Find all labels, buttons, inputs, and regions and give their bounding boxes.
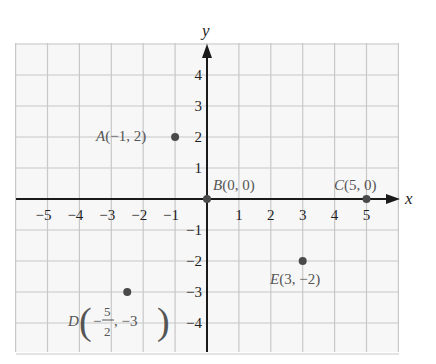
svg-text:2: 2 [104,324,111,339]
x-tick-label: −4 [67,207,83,223]
label-C: C(5, 0) [334,177,377,194]
y-tick-label: 4 [195,67,203,83]
x-tick-label: −3 [99,207,115,223]
label-A: A(−1, 2) [95,128,146,145]
y-tick-label: −1 [186,222,202,238]
x-tick-label: 1 [235,207,243,223]
point-D [123,288,131,296]
label-B: B(0, 0) [213,177,255,194]
svg-text:): ) [157,300,170,343]
y-axis-label: y [200,21,210,40]
point-C [363,195,371,203]
point-A [171,133,179,141]
y-tick-label: −2 [186,253,202,269]
point-E [299,257,307,265]
svg-text:(: ( [79,300,92,343]
coordinate-plane: x y −5−4−3−2−112345−4−3−2−11234 A(−1, 2)… [0,0,436,364]
x-tick-label: 4 [331,207,339,223]
point-B [203,195,211,203]
x-tick-label: 5 [363,207,371,223]
y-tick-label: 2 [195,129,203,145]
svg-text:−: − [93,313,101,329]
y-tick-label: 1 [195,160,203,176]
x-tick-label: 2 [267,207,275,223]
x-tick-label: −1 [163,207,179,223]
svg-text:5: 5 [104,304,111,319]
y-tick-label: −3 [186,284,202,300]
x-axis-label: x [404,189,413,208]
y-tick-label: 3 [195,98,203,114]
svg-text:, −3: , −3 [114,313,137,329]
x-tick-label: −5 [36,207,52,223]
y-tick-label: −4 [186,315,202,331]
svg-text:D: D [67,313,79,329]
x-tick-label: −2 [131,207,147,223]
label-E: E(3, −2) [269,271,320,288]
x-tick-label: 3 [299,207,307,223]
